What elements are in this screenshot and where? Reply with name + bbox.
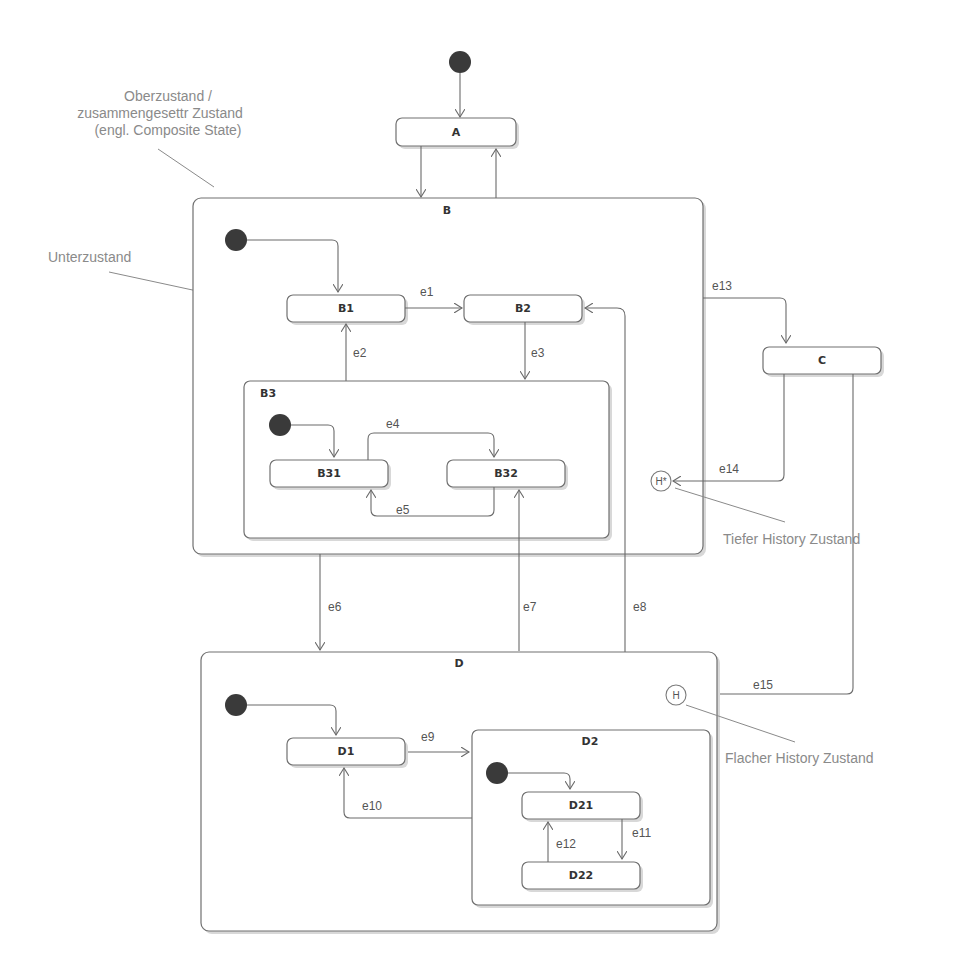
state-D1[interactable]: D1 <box>287 738 408 768</box>
initial-node-D2 <box>486 762 508 784</box>
svg-text:e15: e15 <box>753 678 773 692</box>
svg-text:e14: e14 <box>719 462 739 476</box>
svg-text:D: D <box>454 657 463 670</box>
svg-text:Flacher History Zustand: Flacher History Zustand <box>725 750 874 766</box>
initial-node-B3 <box>269 414 291 436</box>
svg-text:D22: D22 <box>569 869 593 882</box>
svg-text:e2: e2 <box>353 346 367 360</box>
svg-text:A: A <box>452 126 461 139</box>
svg-text:e7: e7 <box>523 600 537 614</box>
svg-text:(engl. Composite State): (engl. Composite State) <box>94 122 241 138</box>
svg-text:B1: B1 <box>338 302 354 315</box>
svg-text:D1: D1 <box>338 745 355 758</box>
svg-text:Unterzustand: Unterzustand <box>48 249 131 265</box>
svg-text:e10: e10 <box>362 799 382 813</box>
svg-text:Oberzustand /: Oberzustand / <box>124 88 212 104</box>
transition-e13 <box>703 298 786 343</box>
svg-text:B32: B32 <box>494 467 518 480</box>
state-C[interactable]: C <box>763 347 884 377</box>
annotation-connector <box>158 149 214 187</box>
svg-text:D21: D21 <box>569 799 593 812</box>
svg-text:e11: e11 <box>632 826 651 840</box>
svg-text:B3: B3 <box>260 387 276 400</box>
annotation-composite-state: Oberzustand / zusammengesettr Zustand (e… <box>77 88 243 187</box>
svg-text:B31: B31 <box>317 467 341 480</box>
state-B1[interactable]: B1 <box>287 295 408 325</box>
initial-node-B <box>225 229 247 251</box>
state-B32[interactable]: B32 <box>447 460 568 490</box>
svg-text:B2: B2 <box>515 302 531 315</box>
initial-node-D <box>225 694 247 716</box>
svg-text:D2: D2 <box>582 735 599 748</box>
svg-text:H: H <box>672 690 679 701</box>
svg-text:e4: e4 <box>386 417 400 431</box>
svg-text:zusammengesettr Zustand: zusammengesettr Zustand <box>77 105 243 121</box>
state-D21[interactable]: D21 <box>522 792 643 822</box>
initial-node-top <box>449 51 471 73</box>
svg-text:e1: e1 <box>420 285 434 299</box>
state-B31[interactable]: B31 <box>270 460 391 490</box>
state-D22[interactable]: D22 <box>522 862 643 892</box>
svg-text:e3: e3 <box>531 346 545 360</box>
svg-text:e6: e6 <box>328 600 342 614</box>
svg-text:e9: e9 <box>421 730 435 744</box>
svg-text:e12: e12 <box>556 837 576 851</box>
svg-text:H*: H* <box>655 476 666 487</box>
svg-text:e13: e13 <box>712 279 732 293</box>
state-B2[interactable]: B2 <box>464 295 585 325</box>
svg-text:e8: e8 <box>633 600 647 614</box>
state-A[interactable]: A <box>396 118 519 149</box>
svg-text:B: B <box>443 204 451 217</box>
svg-text:C: C <box>818 354 826 367</box>
state-diagram: Oberzustand / zusammengesettr Zustand (e… <box>0 0 958 975</box>
svg-text:e5: e5 <box>396 503 410 517</box>
svg-text:Tiefer History Zustand: Tiefer History Zustand <box>723 531 860 547</box>
